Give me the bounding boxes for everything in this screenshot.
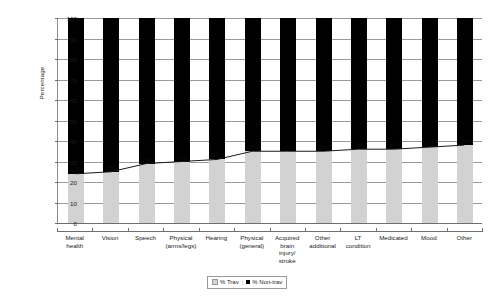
bar-value-label: 25% xyxy=(106,164,118,171)
legend-item-trav: % Trav xyxy=(212,278,239,286)
legend-item-nontrav: % Non-trav xyxy=(246,278,282,286)
x-tick-mark xyxy=(270,228,271,232)
x-label-line: brain xyxy=(270,242,305,250)
nontrav-swatch-icon xyxy=(246,280,250,284)
y-axis-title: Percentage xyxy=(39,43,45,123)
x-label-line: Speech xyxy=(128,234,163,242)
x-axis-label: Physical(arms/legs) xyxy=(163,234,198,249)
x-axis-label: Hearing xyxy=(199,234,234,242)
x-tick-mark xyxy=(57,228,58,232)
x-tick-mark xyxy=(92,228,93,232)
bar-value-label: 36% xyxy=(354,141,366,148)
x-axis-label: Medicated xyxy=(376,234,411,242)
x-label-line: stroke xyxy=(270,257,305,265)
trav-swatch-icon xyxy=(212,279,218,285)
x-label-line: health xyxy=(57,242,92,250)
x-label-line: injury/ xyxy=(270,249,305,257)
gridline-0 xyxy=(58,223,482,224)
bar-value-label: 30% xyxy=(177,154,189,161)
x-axis-label: Vision xyxy=(92,234,127,242)
x-tick-mark xyxy=(376,228,377,232)
bar-value-label: 31% xyxy=(212,151,224,158)
x-tick-mark xyxy=(234,228,235,232)
legend-separator: ; xyxy=(242,278,244,286)
x-tick-mark xyxy=(163,228,164,232)
x-label-line: Mood xyxy=(411,234,446,242)
x-label-line: Hearing xyxy=(199,234,234,242)
x-axis-label: Otheradditional xyxy=(305,234,340,249)
x-label-line: Medicated xyxy=(376,234,411,242)
x-label-line: Other xyxy=(447,234,482,242)
x-axis-label: Speech xyxy=(128,234,163,242)
x-tick-mark xyxy=(199,228,200,232)
trend-line xyxy=(58,18,482,223)
x-tick-mark xyxy=(447,228,448,232)
x-label-line: LT xyxy=(340,234,375,242)
bar-value-label: 35% xyxy=(283,143,295,150)
x-tick-mark xyxy=(340,228,341,232)
stacked-bar-chart: Percentage 24%25%29%30%31%35%35%35%36%36… xyxy=(0,0,499,299)
x-tick-mark xyxy=(482,228,483,232)
x-label-line: Other xyxy=(305,234,340,242)
x-label-line: Mental xyxy=(57,234,92,242)
x-label-line: condition xyxy=(340,242,375,250)
x-label-line: (arms/legs) xyxy=(163,242,198,250)
bar-value-label: 29% xyxy=(141,156,153,163)
bar-value-label: 35% xyxy=(248,143,260,150)
x-tick-mark xyxy=(411,228,412,232)
legend-label-trav: % Trav xyxy=(220,278,239,286)
legend-label-nontrav: % Non-trav xyxy=(252,278,282,286)
trend-polyline xyxy=(76,145,465,174)
x-label-line: Physical xyxy=(234,234,269,242)
bar-value-label: 38% xyxy=(460,137,472,144)
x-label-line: (general) xyxy=(234,242,269,250)
x-label-line: additional xyxy=(305,242,340,250)
x-axis-label: Acquiredbraininjury/stroke xyxy=(270,234,305,264)
x-axis-label: Mood xyxy=(411,234,446,242)
plot-area: 24%25%29%30%31%35%35%35%36%36%37%38% xyxy=(57,18,482,223)
x-tick-mark xyxy=(305,228,306,232)
bar-value-label: 24% xyxy=(71,166,83,173)
bar-value-label: 35% xyxy=(318,143,330,150)
x-axis-label: LTcondition xyxy=(340,234,375,249)
chart-legend: % Trav ; % Non-trav xyxy=(207,276,287,289)
x-label-line: Acquired xyxy=(270,234,305,242)
bar-value-label: 36% xyxy=(389,141,401,148)
x-tick-mark xyxy=(128,228,129,232)
x-axis-label: Physical(general) xyxy=(234,234,269,249)
x-label-line: Vision xyxy=(92,234,127,242)
x-axis-label: Other xyxy=(447,234,482,242)
bar-value-label: 37% xyxy=(425,139,437,146)
x-label-line: Physical xyxy=(163,234,198,242)
x-axis-label: Mentalhealth xyxy=(57,234,92,249)
